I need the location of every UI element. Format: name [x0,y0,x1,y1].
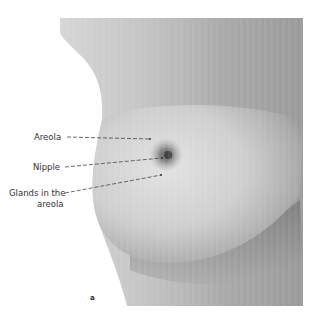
label-areola: Areola [34,132,61,142]
label-glands-line1: Glands in the [9,188,65,198]
anatomical-photo [0,0,320,321]
figure-panel-letter: a [90,294,95,302]
label-glands-line2: areola [37,199,64,209]
label-nipple: Nipple [33,162,60,172]
